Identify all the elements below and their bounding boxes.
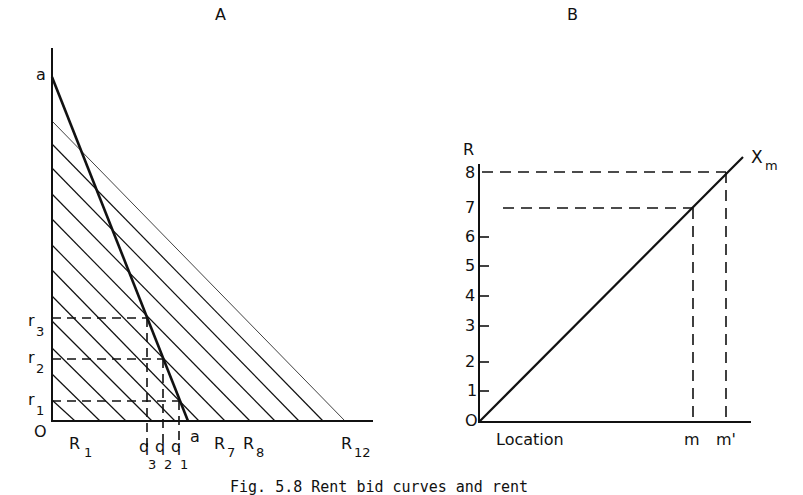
label-R12: R 12	[341, 434, 371, 460]
xm-line	[479, 157, 743, 422]
svg-text:1: 1	[36, 403, 44, 418]
svg-text:X: X	[751, 147, 763, 167]
svg-text:R: R	[341, 434, 352, 453]
svg-text:4: 4	[465, 286, 475, 305]
label-r2: r 2	[28, 348, 44, 376]
label-r3: r 3	[28, 311, 44, 339]
svg-text:3: 3	[36, 324, 44, 339]
panel-a: A a	[28, 5, 373, 472]
panel-b: B O 1 2 3 4 5 6 7 8 R X	[463, 5, 778, 449]
label-a-top: a	[36, 65, 46, 84]
svg-text:5: 5	[465, 256, 475, 275]
svg-text:q: q	[139, 437, 149, 456]
svg-text:1: 1	[467, 381, 477, 400]
svg-text:1: 1	[180, 457, 188, 472]
svg-text:m: m	[765, 158, 778, 173]
svg-text:r: r	[28, 348, 35, 367]
label-r1: r 1	[28, 390, 44, 418]
label-origin-a: O	[34, 422, 47, 441]
label-R7: R 7	[214, 434, 235, 460]
rent-lines	[52, 121, 345, 421]
svg-text:r: r	[28, 390, 35, 409]
label-xm: X m	[751, 147, 778, 173]
label-R1: R 1	[69, 434, 92, 460]
svg-text:12: 12	[354, 445, 371, 460]
bid-rent-line	[52, 77, 188, 421]
y-tick-labels: O 1 2 3 4 5 6 7 8	[465, 163, 478, 430]
svg-text:1: 1	[84, 445, 92, 460]
svg-text:2: 2	[465, 352, 475, 371]
label-q2: q 2	[155, 437, 172, 472]
y-axis-label-R: R	[463, 140, 474, 159]
label-q1: q 1	[171, 437, 188, 472]
svg-text:q: q	[155, 437, 165, 456]
panel-b-title: B	[567, 5, 578, 24]
y-ticks	[479, 237, 489, 391]
label-q3: q 3	[139, 437, 156, 472]
svg-text:R: R	[243, 434, 254, 453]
svg-text:r: r	[28, 311, 35, 330]
svg-text:O: O	[465, 411, 478, 430]
figure-caption: Fig. 5.8 Rent bid curves and rent	[230, 478, 528, 495]
label-R8: R 8	[243, 434, 264, 460]
svg-text:3: 3	[465, 316, 475, 335]
svg-text:R: R	[214, 434, 225, 453]
svg-text:3: 3	[148, 457, 156, 472]
svg-text:2: 2	[164, 457, 172, 472]
svg-text:R: R	[69, 434, 80, 453]
dashed-guides-a	[52, 318, 180, 448]
label-a-bottom: a	[190, 427, 200, 446]
svg-text:8: 8	[256, 445, 264, 460]
svg-text:7: 7	[465, 198, 475, 217]
svg-text:q: q	[171, 437, 181, 456]
figure-canvas: A a	[0, 0, 803, 495]
svg-text:7: 7	[227, 445, 235, 460]
panel-a-title: A	[215, 5, 226, 24]
svg-text:2: 2	[36, 361, 44, 376]
label-m-prime: m'	[716, 430, 736, 449]
svg-text:8: 8	[465, 163, 475, 182]
x-axis-label-location: Location	[496, 430, 564, 449]
label-m: m	[684, 430, 700, 449]
svg-text:6: 6	[465, 227, 475, 246]
